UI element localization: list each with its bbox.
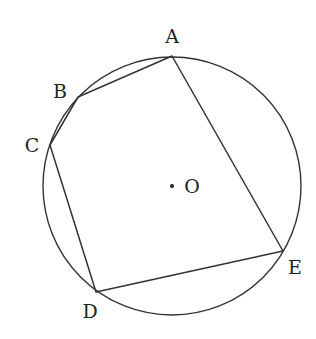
- label-o: O: [184, 175, 200, 197]
- label-e: E: [288, 256, 302, 278]
- geometry-figure: A B C D E O: [0, 0, 316, 339]
- label-d: D: [82, 300, 97, 322]
- label-a: A: [164, 25, 179, 47]
- label-b: B: [53, 80, 67, 102]
- center-point-o: [170, 184, 174, 188]
- label-c: C: [25, 134, 40, 156]
